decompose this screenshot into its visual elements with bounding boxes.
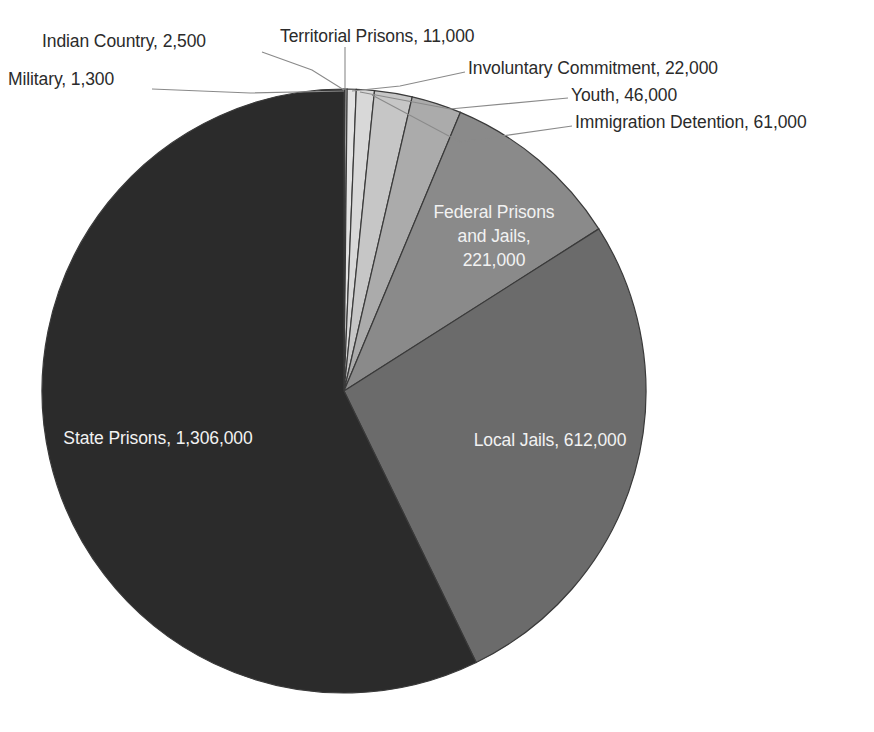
callout-label-military: Military, 1,300 (8, 69, 114, 90)
leader-line-indian-country (262, 52, 344, 90)
leader-line-involuntary-commitment (352, 72, 465, 91)
slice-label-local-jails: Local Jails, 612,000 (474, 430, 627, 450)
slice-label-federal-line3: 221,000 (463, 250, 526, 270)
slice-label-federal-line2: and Jails, (458, 226, 531, 246)
slice-label-federal-line1: Federal Prisons (433, 202, 554, 222)
callout-label-involuntary-commitment: Involuntary Commitment, 22,000 (468, 58, 718, 79)
callout-label-youth: Youth, 46,000 (571, 85, 677, 106)
callout-label-indian-country: Indian Country, 2,500 (42, 31, 206, 52)
slice-label-state-prisons: State Prisons, 1,306,000 (63, 428, 253, 448)
pie-chart-canvas: Federal Prisons and Jails, 221,000 Local… (0, 0, 874, 732)
callout-label-immigration-detention: Immigration Detention, 61,000 (575, 112, 807, 133)
pie-chart: Federal Prisons and Jails, 221,000 Local… (0, 0, 874, 732)
pie-slices (42, 89, 646, 693)
callout-label-territorial-prisons: Territorial Prisons, 11,000 (280, 26, 474, 47)
